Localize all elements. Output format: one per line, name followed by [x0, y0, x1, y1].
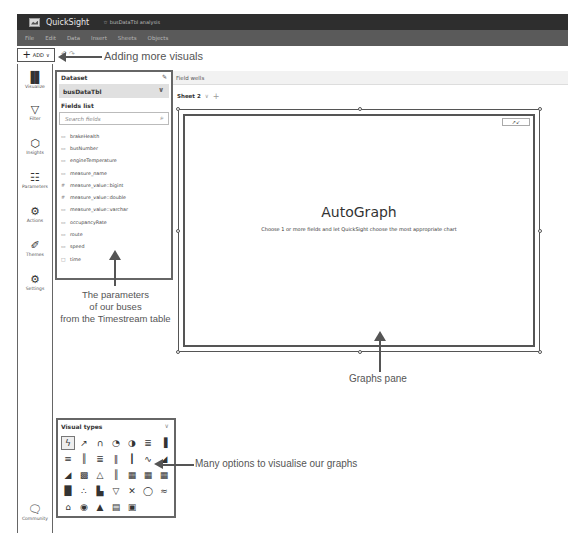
rail-themes[interactable]: ✐ Themes — [18, 240, 52, 257]
gauge-icon[interactable]: ∩ — [93, 436, 107, 450]
visual-types-label: Visual types — [61, 423, 102, 430]
resize-handle[interactable] — [176, 350, 180, 354]
resize-handle[interactable] — [358, 107, 362, 111]
chevron-down-icon[interactable]: ∨ — [205, 93, 209, 99]
arrowhead-icon — [374, 331, 386, 341]
brush-icon: ✐ — [18, 240, 52, 252]
menu-insert[interactable]: Insert — [91, 35, 107, 41]
chevron-down-icon: ∨ — [46, 52, 50, 58]
field-wells[interactable]: Field wells — [173, 71, 568, 85]
arrowhead-icon — [109, 250, 121, 260]
annotation-graphs-pane: Graphs pane — [349, 373, 407, 384]
insight-icon[interactable]: ◉ — [77, 500, 91, 514]
sankey-icon[interactable]: ✕ — [125, 484, 139, 498]
stacked-100-column-icon[interactable]: ┃ — [125, 452, 139, 466]
tab-sheet-2[interactable]: Sheet 2 — [173, 93, 201, 99]
analysis-name[interactable]: ☆ busDataTbl analysis — [103, 19, 160, 25]
menu-bar: File Edit Data Insert Sheets Objects — [17, 30, 568, 46]
chevron-down-icon[interactable]: ∨ — [165, 422, 169, 429]
rail-actions[interactable]: ⚙ Actions — [18, 206, 52, 223]
vertical-bar-icon[interactable]: ▐ — [157, 436, 171, 450]
annotation-arrow — [114, 258, 116, 286]
arrowhead-icon — [58, 52, 66, 62]
autograph-title: AutoGraph — [185, 204, 533, 220]
resize-handle[interactable] — [176, 107, 180, 111]
waterfall-icon[interactable]: ▤ — [109, 500, 123, 514]
menu-data[interactable]: Data — [67, 35, 80, 41]
menu-edit[interactable]: Edit — [45, 35, 56, 41]
annotation-arrow — [64, 56, 102, 58]
sliders-icon: ☷ — [18, 172, 52, 184]
radar-icon[interactable]: ⌂ — [61, 500, 75, 514]
table-icon[interactable]: ▦ — [125, 468, 139, 482]
arrowhead-icon — [154, 459, 163, 469]
resize-handle[interactable] — [358, 350, 362, 354]
toolbar: + ADD ∨ ↶ ↷ — [17, 46, 568, 64]
star-icon: ☆ — [103, 19, 107, 25]
clustered-column-icon[interactable]: ║ — [77, 452, 91, 466]
donut-chart-icon[interactable]: ◔ — [109, 436, 123, 450]
annotation-parameters: The parameters of our buses from the Tim… — [58, 289, 173, 325]
horizontal-bar-icon[interactable]: ≣ — [141, 436, 155, 450]
line-chart-icon[interactable]: ∿ — [141, 452, 155, 466]
visual-container[interactable]: ↗↙ AutoGraph Choose 1 or more fields and… — [178, 109, 540, 352]
add-button[interactable]: + ADD ∨ — [17, 48, 55, 62]
filter-icon: ▽ — [18, 104, 52, 116]
annotation-visual-options: Many options to visualise our graphs — [195, 458, 357, 469]
autograph-icon[interactable]: ϟ — [61, 436, 75, 450]
bar-chart-icon: ▐▌ — [18, 72, 52, 84]
stacked-bar-icon[interactable]: ≣ — [93, 452, 107, 466]
custom-visual-icon[interactable]: ▣ — [125, 500, 139, 514]
autograph-subtitle: Choose 1 or more fields and let QuickSig… — [185, 226, 533, 232]
combo-line-icon[interactable]: △ — [93, 468, 107, 482]
menu-file[interactable]: File — [25, 35, 34, 41]
geo-map-icon[interactable]: ◯ — [141, 484, 155, 498]
annotation-adding-visuals: Adding more visuals — [104, 50, 203, 62]
kpi-icon[interactable]: ↗ — [77, 436, 91, 450]
quicksight-logo-icon — [29, 18, 40, 27]
rail-community[interactable]: 🗨 Community — [18, 504, 52, 521]
menu-objects[interactable]: Objects — [148, 35, 169, 41]
visual-types-grid: ϟ ↗ ∩ ◔ ◑ ≣ ▐ ≡ ║ ≣ ‖ ┃ ∿ ◢ ◢ ▩ △ ║ ▦ ▦ … — [61, 436, 173, 516]
resize-handle[interactable] — [538, 107, 542, 111]
resize-handle[interactable] — [538, 229, 542, 233]
left-rail: ▐▌ Visualize ▽ Filter ⬡ Insights ☷ Param… — [17, 64, 53, 533]
box-plot-icon[interactable]: ║ — [109, 468, 123, 482]
word-cloud-icon[interactable]: ▲ — [93, 500, 107, 514]
add-sheet-button[interactable]: + — [213, 92, 220, 101]
annotation-arrow — [379, 338, 381, 372]
pivot-table-icon[interactable]: ▦ — [141, 468, 155, 482]
rail-settings[interactable]: ⚙ Settings — [18, 274, 52, 291]
rail-parameters[interactable]: ☷ Parameters — [18, 172, 52, 189]
rail-visualize[interactable]: ▐▌ Visualize — [18, 72, 52, 89]
sheet-tabs: Sheet 2 ∨ + — [173, 90, 219, 102]
resize-handle[interactable] — [176, 229, 180, 233]
histogram-icon[interactable]: ▙ — [93, 484, 107, 498]
tree-map-icon[interactable]: █ — [61, 484, 75, 498]
actions-icon: ⚙ — [18, 206, 52, 218]
chat-icon: 🗨 — [18, 504, 52, 516]
pie-chart-icon[interactable]: ◑ — [125, 436, 139, 450]
expand-icon[interactable]: ↗↙ — [502, 118, 530, 126]
plus-icon: + — [22, 50, 30, 60]
scatter-plot-icon[interactable]: ∴ — [77, 484, 91, 498]
annotation-arrow — [162, 464, 194, 466]
app-name: QuickSight — [46, 18, 89, 27]
rail-filter[interactable]: ▽ Filter — [18, 104, 52, 121]
autograph-visual: ↗↙ AutoGraph Choose 1 or more fields and… — [183, 114, 535, 347]
filled-map-icon[interactable]: ≈ — [157, 484, 171, 498]
resize-handle[interactable] — [538, 350, 542, 354]
heat-map-icon[interactable]: ▦ — [157, 468, 171, 482]
clustered-bar-icon[interactable]: ≡ — [61, 452, 75, 466]
title-bar: QuickSight ☆ busDataTbl analysis — [17, 14, 568, 30]
combo-chart-icon[interactable]: ▩ — [77, 468, 91, 482]
stacked-area-icon[interactable]: ◢ — [61, 468, 75, 482]
stacked-column-icon[interactable]: ‖ — [109, 452, 123, 466]
lightbulb-icon: ⬡ — [18, 138, 52, 150]
rail-insights[interactable]: ⬡ Insights — [18, 138, 52, 155]
funnel-icon[interactable]: ▽ — [109, 484, 123, 498]
gear-icon: ⚙ — [18, 274, 52, 286]
menu-sheets[interactable]: Sheets — [118, 35, 137, 41]
